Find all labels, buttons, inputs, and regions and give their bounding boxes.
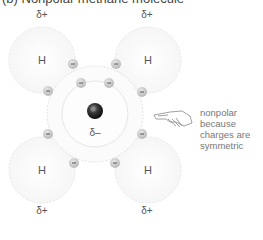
annotation-line: nonpolar: [200, 107, 250, 118]
annotation-line: symmetric: [200, 140, 250, 151]
electron-icon: [68, 59, 78, 69]
hydrogen-symbol: H: [144, 54, 152, 66]
electron-icon: [69, 158, 79, 168]
carbon-charge-label: δ–: [89, 127, 101, 138]
electron-icon: [137, 129, 147, 139]
annotation-line: because: [200, 118, 250, 129]
annotation-line: charges are: [200, 129, 250, 140]
electron-icon: [111, 59, 121, 69]
annotation: nonpolar because charges are symmetric: [200, 107, 250, 151]
electron-icon: [110, 158, 120, 168]
carbon-nucleus: [87, 103, 103, 119]
hydrogen-symbol: H: [38, 164, 46, 176]
pointing-hand-icon: [154, 111, 192, 127]
electron-icon: [104, 78, 114, 88]
hydrogen-symbol: H: [38, 54, 46, 66]
electron-icon: [43, 86, 53, 96]
electron-icon: [43, 129, 53, 139]
electron-icon: [76, 78, 86, 88]
hydrogen-symbol: H: [144, 164, 152, 176]
electron-icon: [137, 87, 147, 97]
